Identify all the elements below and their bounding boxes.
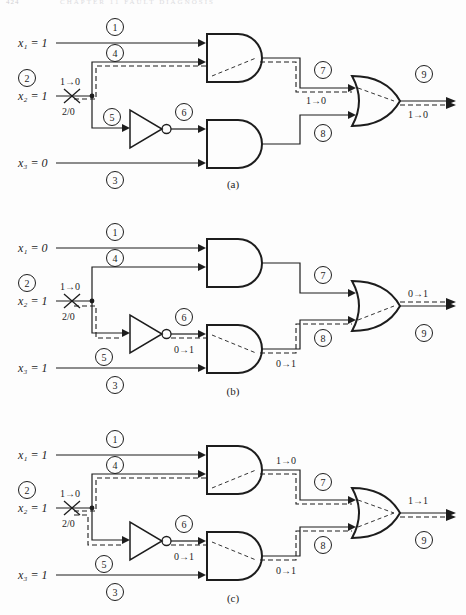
fault-path-a [74, 62, 452, 105]
wire-net8 [262, 115, 348, 144]
value-net6-b: 0→1 [174, 344, 194, 355]
fault-notation-a: 2/0 [62, 106, 75, 117]
input-label-x2-b: x₂ = 1 [17, 294, 48, 308]
wire-net4-b [92, 267, 198, 301]
net-badge-9-c: 9 [422, 535, 427, 546]
sensitized-and1-a [212, 58, 256, 76]
sensitized-and2-c [212, 542, 256, 560]
sensitized-and1-c [212, 470, 256, 488]
input-label-x3-b: x₃ = 1 [17, 361, 48, 375]
fault-transition-c: 1→0 [60, 488, 80, 499]
wire-net5-c [92, 508, 122, 540]
sensitized-or-top-c [358, 500, 394, 513]
panel-b: 1 4 2 5 6 3 7 8 9 x₁ = 0 x₂ = 1 x₃ = 1 [0, 205, 466, 405]
wire-net4 [92, 62, 198, 96]
arrow-net7 [348, 84, 356, 92]
input-label-x1-c: x₁ = 1 [17, 448, 48, 462]
net-badge-7: 7 [321, 65, 326, 76]
net-badge-8: 8 [321, 128, 326, 139]
net-badge-5-c: 5 [102, 559, 107, 570]
arrow-x1-b [198, 244, 206, 252]
net-badge-8-c: 8 [321, 540, 326, 551]
net-badge-1-b: 1 [113, 227, 118, 238]
not-gate-c [130, 522, 162, 560]
and-gate-1-b [207, 239, 262, 287]
net-badge-6-b: 6 [182, 312, 187, 323]
sensitized-or-bot-c [358, 513, 394, 527]
input-label-x2-c: x₂ = 1 [17, 501, 48, 515]
not-gate-b [130, 315, 162, 353]
arrow-x3-c [198, 571, 206, 579]
sensitized-or-a [358, 88, 394, 101]
net-badge-7-b: 7 [321, 270, 326, 281]
fault-transition-b: 1→0 [60, 281, 80, 292]
input-label-x3-c: x₃ = 1 [17, 568, 48, 582]
panel-c: 1 4 2 5 6 3 7 8 9 x₁ = 1 x₂ = 1 x₃ = 1 [0, 412, 466, 612]
fault-notation-b: 2/0 [62, 311, 75, 322]
panel-a: 1 4 2 5 6 3 7 8 9 x₁ = 1 x₂ = 1 [0, 0, 466, 200]
net-badge-3-c: 3 [113, 587, 118, 598]
net-badge-4-b: 4 [113, 253, 118, 264]
value-net8-c: 0→1 [276, 565, 296, 576]
figure-page: 424 CHAPTER 11 FAULT DIAGNOSIS [0, 0, 466, 615]
arrow-net6-b [198, 330, 206, 338]
fault-notation-c: 2/0 [62, 518, 75, 529]
net-badge-1: 1 [113, 22, 118, 33]
arrow-net4 [198, 58, 206, 66]
input-label-x1-b: x₁ = 0 [17, 241, 48, 255]
arrow-net4-b [198, 263, 206, 271]
input-label-x2: x₂ = 1 [17, 89, 48, 103]
net-badge-1-c: 1 [113, 434, 118, 445]
arrow-net6 [198, 125, 206, 133]
caption-c: (c) [227, 592, 240, 605]
and-gate-2-c [207, 532, 262, 580]
arrow-net4-c [198, 470, 206, 478]
value-net7-c: 1→0 [276, 455, 296, 466]
arrow-net6-c [198, 537, 206, 545]
net-badge-3-b: 3 [113, 380, 118, 391]
value-net7-a: 1→0 [306, 95, 326, 106]
sensitized-and2-b [212, 335, 256, 353]
sensitized-or-b [358, 306, 394, 320]
arrow-net7-c [348, 496, 356, 504]
not-gate-a [130, 110, 162, 148]
wire-net7-c [262, 470, 348, 500]
value-net6-c: 0→1 [174, 551, 194, 562]
net-badge-2: 2 [25, 73, 30, 84]
value-net9-a: 1→0 [408, 109, 428, 120]
caption-b: (b) [227, 385, 240, 398]
net-badge-3: 3 [113, 175, 118, 186]
wire-net7 [262, 58, 348, 88]
net-badge-5-b: 5 [102, 352, 107, 363]
fault-transition-a: 1→0 [60, 76, 80, 87]
net-badge-6: 6 [182, 107, 187, 118]
net-badge-5: 5 [110, 112, 115, 123]
and-gate-2-b [207, 325, 262, 373]
net-badge-9: 9 [422, 69, 427, 80]
net-badge-2-c: 2 [25, 485, 30, 496]
net-badge-6-c: 6 [182, 519, 187, 530]
value-net9-b: 0→1 [408, 288, 428, 299]
arrow-x1-c [198, 451, 206, 459]
net-badge-4-c: 4 [113, 460, 118, 471]
wire-net7-b [262, 263, 348, 293]
net-badge-2-b: 2 [25, 278, 30, 289]
and-gate-2-a [207, 120, 262, 168]
net-badge-4: 4 [113, 48, 118, 59]
arrow-net5 [122, 124, 130, 132]
net-badge-9-b: 9 [422, 328, 427, 339]
input-label-x3: x₃ = 0 [17, 156, 48, 170]
caption-a: (a) [227, 178, 240, 191]
arrow-x3 [198, 159, 206, 167]
value-net9-c: 1→1 [408, 495, 428, 506]
arrow-net7-b [348, 289, 356, 297]
arrow-net5-b [122, 329, 130, 337]
arrow-x3-b [198, 364, 206, 372]
input-label-x1: x₁ = 1 [17, 36, 48, 50]
value-net8-b: 0→1 [276, 358, 296, 369]
arrow-net5-c [122, 536, 130, 544]
net-badge-7-c: 7 [321, 477, 326, 488]
wire-net4-c [92, 474, 198, 508]
arrow-x1 [198, 39, 206, 47]
net-badge-8-b: 8 [321, 333, 326, 344]
